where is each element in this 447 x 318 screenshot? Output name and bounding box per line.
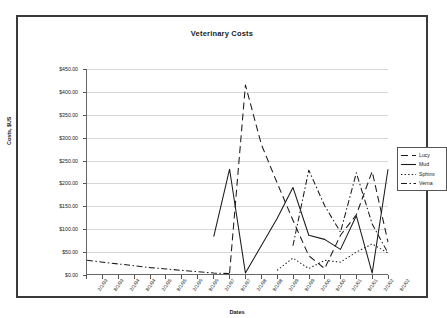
x-tick-label: 8/1/01 bbox=[367, 278, 379, 292]
x-axis-tick-labels: 2/1/938/1/932/1/948/1/942/1/958/1/952/1/… bbox=[86, 278, 388, 306]
y-tick-label: $450.00 bbox=[59, 66, 78, 72]
series-lines bbox=[87, 69, 388, 274]
x-tick-label: 2/1/02 bbox=[383, 278, 395, 292]
chart-frame: Veterinary Costs Costs, $US $0.00$50.00$… bbox=[16, 15, 428, 298]
y-tick-mark bbox=[83, 161, 86, 162]
x-tick-label: 8/1/96 bbox=[208, 278, 220, 292]
x-tick-label: 8/1/94 bbox=[144, 278, 156, 292]
x-tick-label: 8/1/00 bbox=[335, 278, 347, 292]
y-tick-mark bbox=[83, 115, 86, 116]
x-tick-label: 8/1/95 bbox=[176, 278, 188, 292]
legend-item-sphinx[interactable]: Sphinx bbox=[400, 170, 444, 180]
series-line-mud bbox=[214, 169, 388, 273]
x-tick-label: 2/1/97 bbox=[224, 278, 236, 292]
series-line-verna bbox=[293, 170, 388, 253]
legend-item-verna[interactable]: Verna bbox=[400, 179, 444, 189]
x-tick-label: 2/1/99 bbox=[288, 278, 300, 292]
y-tick-mark bbox=[83, 183, 86, 184]
legend-label: Verna bbox=[419, 181, 433, 186]
x-tick-label: 8/1/99 bbox=[303, 278, 315, 292]
x-tick-label: 2/1/98 bbox=[256, 278, 268, 292]
chart-title: Veterinary Costs bbox=[18, 29, 426, 38]
y-tick-label: $0.00 bbox=[65, 272, 78, 278]
series-line-verna bbox=[87, 260, 230, 273]
x-tick-label: 2/1/94 bbox=[129, 278, 141, 292]
legend: LucyMudSphinxVerna bbox=[397, 147, 447, 191]
y-tick-mark bbox=[83, 275, 86, 276]
series-line-sphinx bbox=[277, 244, 388, 270]
y-tick-label: $200.00 bbox=[59, 180, 78, 186]
y-tick-label: $100.00 bbox=[59, 226, 78, 232]
legend-swatch-mud bbox=[400, 161, 417, 168]
y-tick-mark bbox=[83, 92, 86, 93]
legend-label: Sphinx bbox=[419, 172, 435, 177]
legend-item-mud[interactable]: Mud bbox=[400, 160, 444, 170]
legend-item-lucy[interactable]: Lucy bbox=[400, 151, 444, 161]
y-tick-label: $350.00 bbox=[59, 112, 78, 118]
y-tick-label: $400.00 bbox=[59, 89, 78, 95]
y-tick-label: $300.00 bbox=[59, 135, 78, 141]
x-tick-label: 2/1/01 bbox=[351, 278, 363, 292]
y-tick-label: $250.00 bbox=[59, 158, 78, 164]
legend-label: Lucy bbox=[419, 153, 430, 158]
x-tick-mark bbox=[388, 275, 389, 279]
legend-swatch-verna bbox=[400, 180, 417, 187]
x-tick-label: 2/1/93 bbox=[97, 278, 109, 292]
y-tick-mark bbox=[83, 229, 86, 230]
y-tick-label: $150.00 bbox=[59, 203, 78, 209]
y-tick-mark bbox=[83, 252, 86, 253]
x-tick-label: 2/1/95 bbox=[160, 278, 172, 292]
y-tick-mark bbox=[83, 69, 86, 70]
plot-area bbox=[86, 69, 388, 275]
x-tick-label: 8/1/93 bbox=[113, 278, 125, 292]
x-tick-label: 8/1/02 bbox=[399, 278, 411, 292]
y-tick-mark bbox=[83, 206, 86, 207]
legend-label: Mud bbox=[419, 162, 429, 167]
x-tick-label: 8/1/97 bbox=[240, 278, 252, 292]
x-tick-label: 2/1/00 bbox=[319, 278, 331, 292]
y-axis-tick-labels: $0.00$50.00$100.00$150.00$200.00$250.00$… bbox=[18, 69, 84, 275]
x-axis-title: Dates bbox=[86, 309, 388, 315]
y-tick-label: $50.00 bbox=[62, 249, 78, 255]
y-axis-title: Costs, $US bbox=[6, 117, 12, 145]
legend-swatch-sphinx bbox=[400, 171, 417, 178]
y-tick-mark bbox=[83, 138, 86, 139]
x-tick-label: 2/1/96 bbox=[192, 278, 204, 292]
legend-swatch-lucy bbox=[400, 152, 417, 159]
x-tick-label: 8/1/98 bbox=[272, 278, 284, 292]
